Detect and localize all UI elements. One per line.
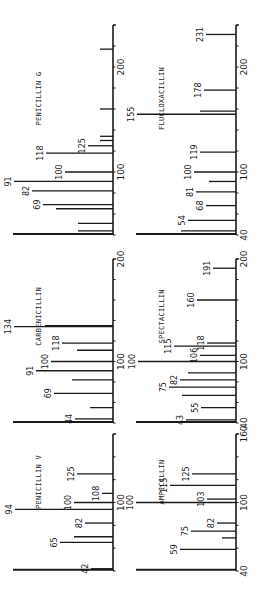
peak-label: 134 [4, 319, 13, 334]
peak-label: 125 [182, 466, 191, 481]
spectrum-panel-penicillin-g: 100200698291100118125PENICILLIN G [4, 25, 126, 235]
axis-tick-label: 200 [116, 58, 126, 75]
compound-title: AMPICILLIN [158, 459, 166, 504]
peak-label: 82 [170, 375, 179, 385]
peak-label: 100 [64, 495, 73, 510]
peak-label: 100 [55, 164, 64, 179]
spectrum-panel-flucloxacillin: 40100200546881100119155178231FLUCLOXACIL… [127, 25, 249, 241]
peak-label: 82 [207, 518, 216, 528]
peak-label: 191 [203, 261, 212, 276]
spectrum-panel-spectacillin: 4010020043557582100106115118160191SPECTA… [128, 250, 249, 429]
axis-tick-label: 40 [239, 565, 249, 577]
axis-tick-label: 200 [116, 250, 126, 267]
peak-label: 68 [196, 201, 205, 211]
peak-label: 59 [170, 544, 179, 554]
axis-tick-label: 100 [116, 353, 126, 370]
peak-label: 118 [36, 145, 45, 160]
peak-label: 44 [65, 414, 74, 424]
peak-label: 155 [127, 107, 136, 122]
axis-tick-label: 200 [239, 58, 249, 75]
peak-label: 54 [178, 215, 187, 225]
peak-label: 69 [33, 199, 42, 209]
axis-tick-label: 100 [239, 353, 249, 370]
peak-label: 81 [186, 187, 195, 197]
peak-label: 75 [159, 382, 168, 392]
axis-tick-label: 100 [116, 494, 126, 511]
peak-label: 103 [197, 491, 206, 506]
peak-label: 55 [191, 403, 200, 413]
peak-label: 119 [190, 144, 199, 159]
axis-tick-label: 100 [116, 163, 126, 180]
peak-label: 118 [52, 335, 61, 350]
peak-label: 94 [5, 504, 14, 514]
peak-label: 82 [75, 518, 84, 528]
peak-label: 100 [184, 164, 193, 179]
spectrum-panel-carbenicillin: 100200446991100118134CARBENICILLIN [4, 250, 126, 424]
axis-tick-label: 200 [239, 250, 249, 267]
axis-tick-label: 160 [239, 425, 249, 442]
axis-tick-label: 40 [239, 229, 249, 241]
spectrum-panel-penicillin-v: 10042658294100108125PENICILLIN V [5, 434, 126, 574]
compound-title: PENICILLIN V [35, 454, 43, 509]
peak-label: 65 [50, 537, 59, 547]
axis-tick-label: 100 [239, 163, 249, 180]
peak-label: 231 [196, 27, 205, 42]
axis-tick-label: 100 [239, 494, 249, 511]
compound-title: SPECTACILLIN [158, 289, 166, 343]
peak-label: 178 [194, 82, 203, 97]
peak-label: 100 [41, 354, 50, 369]
spectrum-panel-ampicillin: 40100160597582100103115125AMPICILLIN [126, 425, 249, 577]
compound-title: CARBENICILLIN [35, 287, 43, 346]
peak-label: 125 [67, 466, 76, 481]
peak-label: 42 [81, 564, 90, 574]
mass-spectra-figure: 100200698291100118125PENICILLIN G4010020… [0, 0, 259, 590]
peak-label: 125 [78, 138, 87, 153]
spectra-canvas: 100200698291100118125PENICILLIN G4010020… [0, 0, 259, 590]
peak-label: 160 [187, 292, 196, 307]
peak-label: 69 [44, 388, 53, 398]
peak-label: 75 [181, 526, 190, 536]
compound-title: FLUCLOXACILLIN [158, 67, 166, 130]
peak-label: 91 [4, 176, 13, 186]
compound-title: PENICILLIN G [35, 71, 43, 125]
peak-label: 82 [22, 186, 31, 196]
peak-label: 108 [92, 486, 101, 501]
peak-label: 91 [26, 366, 35, 376]
peak-label: 100 [128, 354, 137, 369]
peak-label: 43 [176, 415, 185, 425]
peak-label: 100 [126, 495, 135, 510]
peak-label: 118 [197, 335, 206, 350]
